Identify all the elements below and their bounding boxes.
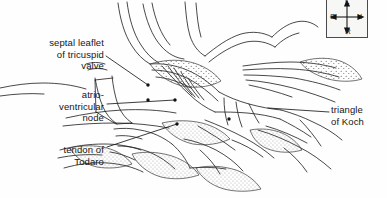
dot-septal-leaflet: [146, 83, 149, 86]
compass-label-bottom: R: [345, 28, 351, 36]
label-atrioventricular-node: atrio- ventricular node: [8, 89, 104, 124]
compass-label-top: L: [345, 0, 349, 6]
figure-page: septal leaflet of tricuspid valve atrio-…: [0, 0, 387, 198]
label-tendon-of-todaro: tendon of Todaro: [8, 144, 104, 167]
compass-label-left: S: [330, 13, 335, 21]
leader-triangle-koch: [268, 108, 329, 112]
label-triangle-of-koch: triangle of Koch: [331, 104, 387, 127]
dot-triangle-koch: [227, 117, 230, 120]
compass-label-right: I: [360, 13, 362, 21]
dot-tendon-todaro: [175, 122, 178, 125]
orientation-compass: L S I R: [326, 0, 368, 38]
dot-av-node: [173, 98, 176, 101]
label-septal-leaflet-of-tricuspid-valve: septal leaflet of tricuspid valve: [0, 37, 104, 72]
dot-av-node-secondary: [146, 98, 149, 101]
